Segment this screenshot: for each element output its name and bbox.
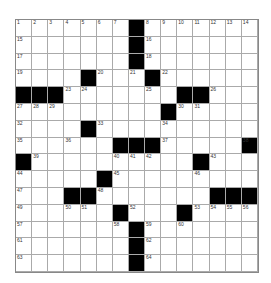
- crossword-cell[interactable]: 31: [193, 104, 209, 121]
- crossword-cell[interactable]: [226, 121, 242, 138]
- crossword-cell[interactable]: 17: [16, 54, 32, 71]
- crossword-cell[interactable]: [64, 238, 80, 255]
- crossword-cell[interactable]: [129, 188, 145, 205]
- crossword-cell[interactable]: [177, 54, 193, 71]
- crossword-cell[interactable]: [242, 121, 258, 138]
- crossword-cell[interactable]: 44: [16, 171, 32, 188]
- crossword-cell[interactable]: 64: [145, 255, 161, 272]
- crossword-cell[interactable]: [64, 54, 80, 71]
- crossword-cell[interactable]: [193, 188, 209, 205]
- crossword-cell[interactable]: [210, 171, 226, 188]
- crossword-cell[interactable]: [193, 222, 209, 239]
- crossword-cell[interactable]: [210, 54, 226, 71]
- crossword-cell[interactable]: 32: [16, 121, 32, 138]
- crossword-cell[interactable]: 1: [16, 20, 32, 37]
- crossword-cell[interactable]: [32, 138, 48, 155]
- crossword-cell[interactable]: [129, 171, 145, 188]
- crossword-cell[interactable]: [226, 87, 242, 104]
- crossword-cell[interactable]: 5: [81, 20, 97, 37]
- crossword-cell[interactable]: [193, 70, 209, 87]
- crossword-cell[interactable]: [242, 70, 258, 87]
- crossword-cell[interactable]: 11: [193, 20, 209, 37]
- crossword-cell[interactable]: 13: [226, 20, 242, 37]
- crossword-cell[interactable]: 10: [177, 20, 193, 37]
- crossword-cell[interactable]: 12: [210, 20, 226, 37]
- crossword-cell[interactable]: 3: [48, 20, 64, 37]
- crossword-cell[interactable]: [226, 54, 242, 71]
- crossword-cell[interactable]: 8: [145, 20, 161, 37]
- crossword-cell[interactable]: [129, 121, 145, 138]
- crossword-cell[interactable]: [32, 222, 48, 239]
- crossword-cell[interactable]: [177, 37, 193, 54]
- crossword-cell[interactable]: [242, 37, 258, 54]
- crossword-cell[interactable]: [242, 104, 258, 121]
- crossword-cell[interactable]: [210, 104, 226, 121]
- crossword-cell[interactable]: 47: [16, 188, 32, 205]
- crossword-cell[interactable]: [97, 222, 113, 239]
- crossword-cell[interactable]: [210, 37, 226, 54]
- crossword-cell[interactable]: [210, 255, 226, 272]
- crossword-cell[interactable]: [177, 255, 193, 272]
- crossword-cell[interactable]: [81, 37, 97, 54]
- crossword-cell[interactable]: [226, 238, 242, 255]
- crossword-cell[interactable]: 53: [193, 205, 209, 222]
- crossword-cell[interactable]: [48, 70, 64, 87]
- crossword-cell[interactable]: 22: [161, 70, 177, 87]
- crossword-cell[interactable]: 26: [210, 87, 226, 104]
- crossword-cell[interactable]: [48, 138, 64, 155]
- crossword-cell[interactable]: [97, 154, 113, 171]
- crossword-cell[interactable]: [48, 54, 64, 71]
- crossword-cell[interactable]: [177, 121, 193, 138]
- crossword-cell[interactable]: [81, 104, 97, 121]
- crossword-cell[interactable]: [97, 205, 113, 222]
- crossword-cell[interactable]: [226, 171, 242, 188]
- crossword-cell[interactable]: [32, 171, 48, 188]
- crossword-cell[interactable]: 18: [145, 54, 161, 71]
- crossword-cell[interactable]: [97, 87, 113, 104]
- crossword-cell[interactable]: [193, 54, 209, 71]
- crossword-cell[interactable]: [161, 154, 177, 171]
- crossword-cell[interactable]: [242, 54, 258, 71]
- crossword-cell[interactable]: 40: [113, 154, 129, 171]
- crossword-cell[interactable]: [48, 222, 64, 239]
- crossword-cell[interactable]: 15: [16, 37, 32, 54]
- crossword-cell[interactable]: [210, 238, 226, 255]
- crossword-cell[interactable]: [64, 37, 80, 54]
- crossword-cell[interactable]: [97, 138, 113, 155]
- crossword-cell[interactable]: 2: [32, 20, 48, 37]
- crossword-cell[interactable]: [161, 238, 177, 255]
- crossword-cell[interactable]: [193, 255, 209, 272]
- crossword-cell[interactable]: [64, 154, 80, 171]
- crossword-cell[interactable]: [48, 238, 64, 255]
- crossword-cell[interactable]: [242, 255, 258, 272]
- crossword-cell[interactable]: [32, 121, 48, 138]
- crossword-cell[interactable]: 42: [145, 154, 161, 171]
- crossword-cell[interactable]: 57: [16, 222, 32, 239]
- crossword-cell[interactable]: [210, 138, 226, 155]
- crossword-cell[interactable]: [193, 138, 209, 155]
- crossword-cell[interactable]: [32, 238, 48, 255]
- crossword-cell[interactable]: [210, 222, 226, 239]
- crossword-cell[interactable]: 60: [177, 222, 193, 239]
- crossword-cell[interactable]: [32, 37, 48, 54]
- crossword-cell[interactable]: [193, 37, 209, 54]
- crossword-cell[interactable]: [48, 121, 64, 138]
- crossword-cell[interactable]: [113, 238, 129, 255]
- crossword-cell[interactable]: 46: [193, 171, 209, 188]
- crossword-cell[interactable]: [64, 222, 80, 239]
- crossword-cell[interactable]: 62: [145, 238, 161, 255]
- crossword-cell[interactable]: [226, 104, 242, 121]
- crossword-cell[interactable]: [242, 154, 258, 171]
- crossword-cell[interactable]: 45: [113, 171, 129, 188]
- crossword-cell[interactable]: 48: [97, 188, 113, 205]
- crossword-cell[interactable]: [210, 70, 226, 87]
- crossword-cell[interactable]: 25: [145, 87, 161, 104]
- crossword-cell[interactable]: [81, 171, 97, 188]
- crossword-cell[interactable]: [81, 255, 97, 272]
- crossword-cell[interactable]: 19: [16, 70, 32, 87]
- crossword-cell[interactable]: [48, 171, 64, 188]
- crossword-cell[interactable]: [226, 255, 242, 272]
- crossword-cell[interactable]: 7: [113, 20, 129, 37]
- crossword-cell[interactable]: [177, 171, 193, 188]
- crossword-cell[interactable]: 29: [48, 104, 64, 121]
